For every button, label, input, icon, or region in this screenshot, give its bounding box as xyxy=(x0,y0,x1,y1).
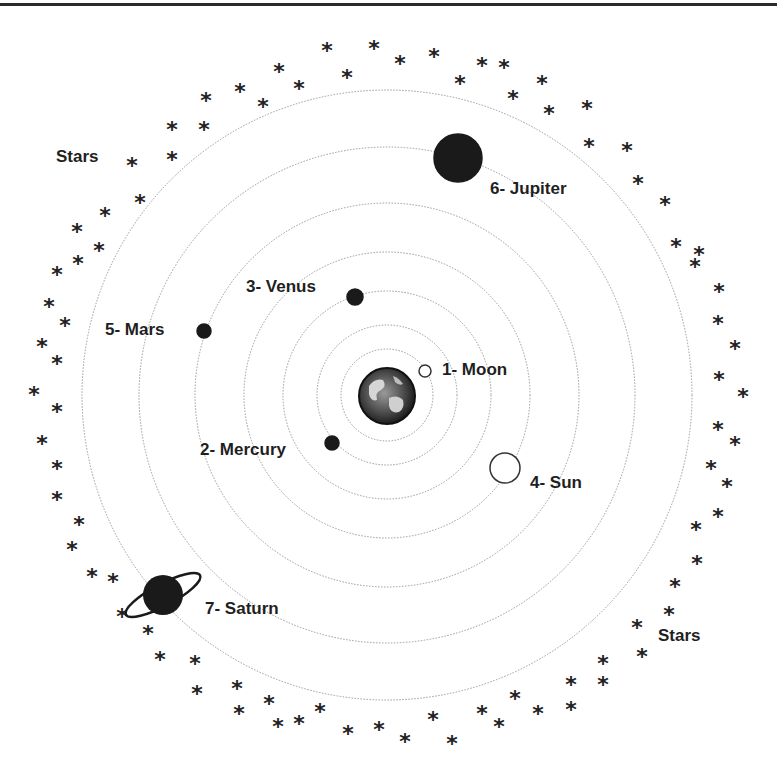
venus-label: 3- Venus xyxy=(246,277,316,296)
star-icon: * xyxy=(134,190,146,215)
diagram-canvas: ****************************************… xyxy=(0,0,777,777)
star-icon: * xyxy=(729,432,741,457)
star-icon: * xyxy=(189,651,201,676)
star-icon: * xyxy=(72,251,84,276)
star-icon: * xyxy=(399,729,411,754)
star-icon: * xyxy=(93,238,105,263)
star-icon: * xyxy=(154,647,166,672)
star-icon: * xyxy=(670,234,682,259)
jupiter-icon xyxy=(434,134,482,182)
stars-label: Stars xyxy=(658,626,701,645)
star-icon: * xyxy=(509,686,521,711)
mercury-icon xyxy=(325,436,339,450)
star-icon: * xyxy=(28,382,40,407)
star-icon: * xyxy=(446,731,458,756)
venus-icon xyxy=(347,289,363,305)
star-icon: * xyxy=(737,384,749,409)
star-icon: * xyxy=(51,351,63,376)
star-icon: * xyxy=(321,38,333,63)
star-icon: * xyxy=(233,701,245,726)
geocentric-diagram: ****************************************… xyxy=(0,0,777,777)
star-icon: * xyxy=(476,53,488,78)
star-icon: * xyxy=(507,86,519,111)
stars-label: Stars xyxy=(56,147,99,166)
star-icon: * xyxy=(721,474,733,499)
saturn-icon xyxy=(121,566,205,625)
star-icon: * xyxy=(565,672,577,697)
saturn-label: 7- Saturn xyxy=(205,599,279,618)
star-icon: * xyxy=(99,203,111,228)
star-icon: * xyxy=(272,714,284,739)
earth-icon xyxy=(359,368,415,424)
star-icon: * xyxy=(454,71,466,96)
mars-icon xyxy=(197,324,211,338)
star-icon: * xyxy=(293,76,305,101)
star-icon: * xyxy=(712,311,724,336)
star-icon: * xyxy=(669,574,681,599)
star-icon: * xyxy=(581,96,593,121)
star-icon: * xyxy=(234,79,246,104)
star-icon: * xyxy=(257,94,269,119)
star-icon: * xyxy=(200,88,212,113)
star-icon: * xyxy=(51,262,63,287)
star-icon: * xyxy=(394,51,406,76)
star-icon: * xyxy=(729,336,741,361)
star-icon: * xyxy=(713,279,725,304)
star-icon: * xyxy=(373,717,385,742)
star-icon: * xyxy=(368,36,380,61)
celestial-bodies xyxy=(121,134,520,624)
star-icon: * xyxy=(691,551,703,576)
star-icon: * xyxy=(51,399,63,424)
star-icon: * xyxy=(191,681,203,706)
star-icon: * xyxy=(621,138,633,163)
star-icon: * xyxy=(636,644,648,669)
star-icon: * xyxy=(428,44,440,69)
star-icon: * xyxy=(659,192,671,217)
star-icon: * xyxy=(51,487,63,512)
jupiter-label: 6- Jupiter xyxy=(490,179,567,198)
star-icon: * xyxy=(342,721,354,746)
star-icon: * xyxy=(142,621,154,646)
star-icon: * xyxy=(476,701,488,726)
star-icon: * xyxy=(712,504,724,529)
star-icon: * xyxy=(107,569,119,594)
star-icon: * xyxy=(536,71,548,96)
moon-icon xyxy=(419,365,431,377)
star-icon: * xyxy=(690,517,702,542)
star-icon: * xyxy=(663,602,675,627)
star-icon: * xyxy=(498,55,510,80)
star-icon: * xyxy=(263,691,275,716)
star-icon: * xyxy=(583,134,595,159)
sun-icon xyxy=(490,453,520,483)
star-icon: * xyxy=(86,564,98,589)
star-icon: * xyxy=(565,697,577,722)
star-icon: * xyxy=(71,219,83,244)
star-icon: * xyxy=(713,367,725,392)
star-icon: * xyxy=(43,294,55,319)
star-icon: * xyxy=(126,153,138,178)
star-icon: * xyxy=(36,431,48,456)
star-icon: * xyxy=(36,334,48,359)
earth-globe xyxy=(359,368,415,424)
star-icon: * xyxy=(532,701,544,726)
star-icon: * xyxy=(231,676,243,701)
star-icon: * xyxy=(705,456,717,481)
star-icon: * xyxy=(712,417,724,442)
star-icon: * xyxy=(493,714,505,739)
star-icon: * xyxy=(73,512,85,537)
star-icon: * xyxy=(51,456,63,481)
star-icon: * xyxy=(59,313,71,338)
star-icon: * xyxy=(689,254,701,279)
star-icon: * xyxy=(543,101,555,126)
star-icon: * xyxy=(632,171,644,196)
star-icon: * xyxy=(166,147,178,172)
star-icon: * xyxy=(314,699,326,724)
sun-label: 4- Sun xyxy=(530,473,582,492)
star-icon: * xyxy=(66,537,78,562)
moon-label: 1- Moon xyxy=(442,360,507,379)
star-icon: * xyxy=(293,711,305,736)
star-icon: * xyxy=(427,707,439,732)
star-icon: * xyxy=(597,672,609,697)
star-icon: * xyxy=(631,615,643,640)
mercury-label: 2- Mercury xyxy=(200,440,287,459)
